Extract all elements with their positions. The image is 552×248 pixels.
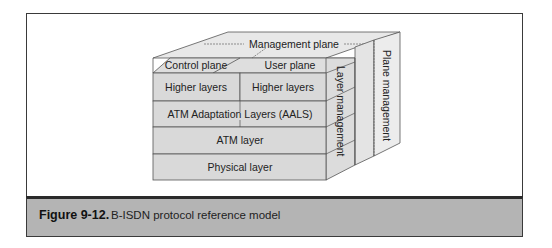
caption-band: Figure 9-12. B-ISDN protocol reference m…: [26, 196, 523, 237]
user-plane-label: User plane: [265, 59, 316, 71]
plane-management-label: Plane management: [381, 50, 393, 141]
side-middle-face: [355, 40, 374, 165]
aal-label: ATM Adaptation Layers (AALS): [167, 108, 312, 120]
higher-layers-control-label: Higher layers: [165, 81, 227, 93]
figure-caption: B-ISDN protocol reference model: [111, 209, 280, 221]
higher-layers-user-label: Higher layers: [252, 81, 314, 93]
control-plane-label: Control plane: [165, 59, 228, 71]
physical-layer-label: Physical layer: [208, 161, 273, 173]
management-plane-label: Management plane: [249, 38, 339, 50]
atm-layer-label: ATM layer: [216, 134, 264, 146]
figure-number: Figure 9-12.: [39, 208, 109, 222]
layer-management-label: Layer management: [335, 66, 347, 157]
